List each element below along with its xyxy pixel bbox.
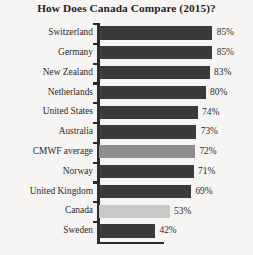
- bar: [99, 205, 170, 218]
- bar-row: Sweden42%: [0, 221, 253, 241]
- bar-value-label: 73%: [201, 125, 218, 138]
- bar-value-label: 80%: [210, 86, 227, 99]
- bar: [99, 66, 210, 79]
- bar-row: Germany85%: [0, 43, 253, 63]
- bar: [99, 165, 194, 178]
- axis-tick: [93, 162, 98, 164]
- bar: [99, 145, 195, 158]
- axis-baseline: [97, 242, 164, 245]
- plot-area: Switzerland85%Germany85%New Zealand83%Ne…: [0, 23, 253, 249]
- bar: [99, 86, 206, 99]
- bar: [99, 185, 191, 198]
- axis-tick: [93, 102, 98, 104]
- category-label: Canada: [65, 204, 93, 216]
- bar-value-label: 53%: [174, 205, 191, 218]
- axis-tick: [93, 181, 98, 183]
- bar-value-label: 74%: [202, 106, 219, 119]
- bar-value-label: 85%: [217, 46, 234, 59]
- bar-row: Norway71%: [0, 162, 253, 182]
- bar: [99, 26, 212, 39]
- axis-tick: [93, 23, 98, 25]
- axis-tick: [93, 82, 98, 84]
- bar-row: New Zealand83%: [0, 63, 253, 83]
- axis-tick: [93, 122, 98, 124]
- bar-row: Netherlands80%: [0, 82, 253, 102]
- category-label: Sweden: [63, 224, 93, 236]
- category-label: Germany: [58, 46, 93, 58]
- bar-row: Canada53%: [0, 201, 253, 221]
- chart-title: How Does Canada Compare (2015)?: [0, 2, 253, 14]
- bar-value-label: 42%: [159, 224, 176, 237]
- category-label: United Kingdom: [30, 185, 93, 197]
- category-label: New Zealand: [43, 66, 93, 78]
- axis-tick: [93, 142, 98, 144]
- category-label: Netherlands: [48, 86, 93, 98]
- bar-row: CMWF average72%: [0, 142, 253, 162]
- axis-tick: [93, 43, 98, 45]
- bar-value-label: 69%: [195, 185, 212, 198]
- category-label: CMWF average: [33, 145, 93, 157]
- bar-row: United States74%: [0, 102, 253, 122]
- bar-row: Switzerland85%: [0, 23, 253, 43]
- bar: [99, 125, 196, 138]
- bar: [99, 106, 198, 119]
- bar-value-label: 71%: [198, 165, 215, 178]
- category-label: Norway: [63, 165, 93, 177]
- bar-value-label: 83%: [214, 66, 231, 79]
- bar-chart: How Does Canada Compare (2015)? Switzerl…: [0, 0, 253, 255]
- bar-row: Australia73%: [0, 122, 253, 142]
- bar: [99, 46, 212, 59]
- bar-value-label: 85%: [217, 26, 234, 39]
- category-label: United States: [43, 105, 93, 117]
- bar-row: United Kingdom69%: [0, 181, 253, 201]
- axis-tick: [93, 201, 98, 203]
- axis-tick: [93, 63, 98, 65]
- category-label: Australia: [59, 125, 93, 137]
- bar-value-label: 72%: [199, 145, 216, 158]
- category-label: Switzerland: [48, 26, 93, 38]
- bar: [99, 224, 155, 237]
- axis-tick: [93, 221, 98, 223]
